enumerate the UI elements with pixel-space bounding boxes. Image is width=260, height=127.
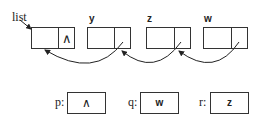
node-y (87, 27, 131, 49)
var-q-label: q: (128, 96, 137, 108)
node-w-label: w (204, 13, 212, 25)
var-r-label: r: (199, 96, 206, 108)
var-p-label: p: (55, 96, 64, 108)
node-list: ∧ (31, 27, 75, 49)
node-divider (231, 28, 232, 48)
node-w (203, 27, 248, 49)
node-z-label: z (147, 13, 152, 25)
null-pointer-symbol: ∧ (59, 31, 75, 47)
var-p-box: ∧ (67, 92, 106, 114)
var-q-box: w (140, 92, 179, 114)
var-r-box: z (210, 92, 249, 114)
node-divider (114, 28, 115, 48)
node-divider (174, 28, 175, 48)
list-label: list (12, 11, 27, 23)
node-y-label: y (89, 13, 95, 25)
node-z (146, 27, 191, 49)
